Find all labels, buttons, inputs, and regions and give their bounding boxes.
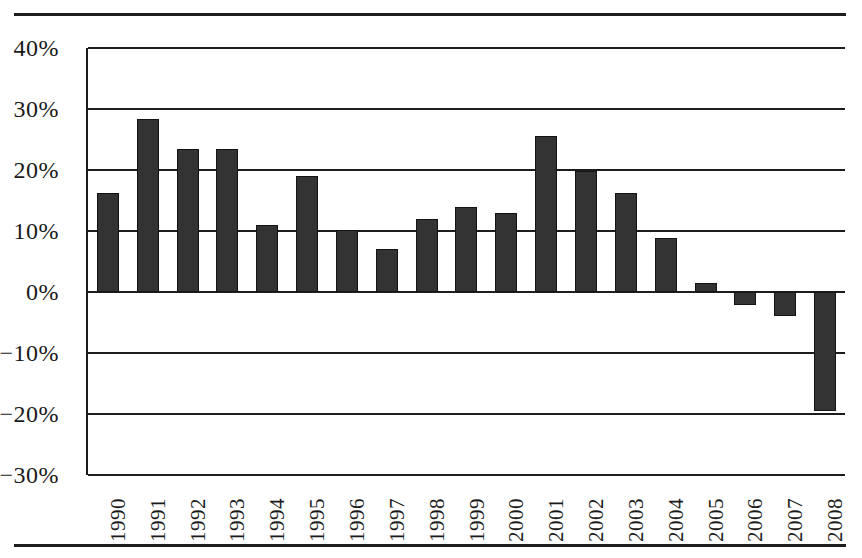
bar-slot xyxy=(646,48,686,475)
x-tick-label-2003: 2003 xyxy=(606,484,646,546)
bar-2008[interactable] xyxy=(814,292,836,411)
bar-slot xyxy=(526,48,566,475)
x-tick-label-1992: 1992 xyxy=(168,484,208,546)
x-tick-label-2000: 2000 xyxy=(486,484,526,546)
bar-1999[interactable] xyxy=(455,207,477,292)
bar-1996[interactable] xyxy=(336,230,358,292)
figure-top-rule xyxy=(14,13,846,16)
x-tick-label-1991: 1991 xyxy=(128,484,168,546)
y-tick-label: 30% xyxy=(0,97,59,121)
bar-slot xyxy=(88,48,128,475)
x-tick-label-2001: 2001 xyxy=(526,484,566,546)
bar-2001[interactable] xyxy=(535,136,557,292)
bar-slot xyxy=(686,48,726,475)
bar-2006[interactable] xyxy=(734,292,756,305)
bar-slot xyxy=(287,48,327,475)
bar-slot xyxy=(168,48,208,475)
bar-series xyxy=(88,48,845,475)
bar-1994[interactable] xyxy=(256,225,278,292)
x-tick-label-1990: 1990 xyxy=(88,484,128,546)
bar-slot xyxy=(208,48,248,475)
y-tick-label: 0% xyxy=(0,280,59,304)
bar-slot xyxy=(486,48,526,475)
x-tick-label-1999: 1999 xyxy=(447,484,487,546)
bar-slot xyxy=(327,48,367,475)
y-tick-label: −20% xyxy=(0,402,59,426)
bar-slot xyxy=(407,48,447,475)
figure-container: 40%30%20%10%0%−10%−20%−30% 1990199119921… xyxy=(0,0,862,558)
x-tick-label-1996: 1996 xyxy=(327,484,367,546)
y-tick-label: 10% xyxy=(0,219,59,243)
x-tick-label-1993: 1993 xyxy=(207,484,247,546)
bar-slot xyxy=(606,48,646,475)
x-tick-label-2008: 2008 xyxy=(805,484,845,546)
bar-2004[interactable] xyxy=(655,238,677,292)
bar-slot xyxy=(128,48,168,475)
bar-1992[interactable] xyxy=(177,149,199,292)
bar-1990[interactable] xyxy=(97,193,119,292)
x-tick-label-1998: 1998 xyxy=(407,484,447,546)
bar-2002[interactable] xyxy=(575,171,597,292)
y-tick-label: 40% xyxy=(0,36,59,60)
bar-slot xyxy=(447,48,487,475)
x-tick-label-1994: 1994 xyxy=(247,484,287,546)
bar-2000[interactable] xyxy=(495,213,517,292)
bar-2003[interactable] xyxy=(615,193,637,292)
x-tick-label-2002: 2002 xyxy=(566,484,606,546)
bar-slot xyxy=(765,48,805,475)
x-tick-label-1997: 1997 xyxy=(367,484,407,546)
bar-2007[interactable] xyxy=(774,292,796,316)
bar-slot xyxy=(247,48,287,475)
x-tick-label-2004: 2004 xyxy=(646,484,686,546)
x-tick-label-1995: 1995 xyxy=(287,484,327,546)
plot-area: 40%30%20%10%0%−10%−20%−30% xyxy=(88,48,845,475)
bar-slot xyxy=(805,48,845,475)
bar-slot xyxy=(566,48,606,475)
x-tick-label-2007: 2007 xyxy=(765,484,805,546)
bar-1991[interactable] xyxy=(137,119,159,292)
bar-slot xyxy=(367,48,407,475)
bar-1998[interactable] xyxy=(416,219,438,292)
y-tick-label: −10% xyxy=(0,341,59,365)
bar-1997[interactable] xyxy=(376,249,398,292)
y-tick-label: −30% xyxy=(0,463,59,487)
bar-1993[interactable] xyxy=(216,149,238,292)
bar-1995[interactable] xyxy=(296,176,318,292)
x-tick-label-2005: 2005 xyxy=(686,484,726,546)
y-tick-label: 20% xyxy=(0,158,59,182)
x-tick-label-2006: 2006 xyxy=(725,484,765,546)
bar-slot xyxy=(725,48,765,475)
bar-2005[interactable] xyxy=(695,283,717,292)
